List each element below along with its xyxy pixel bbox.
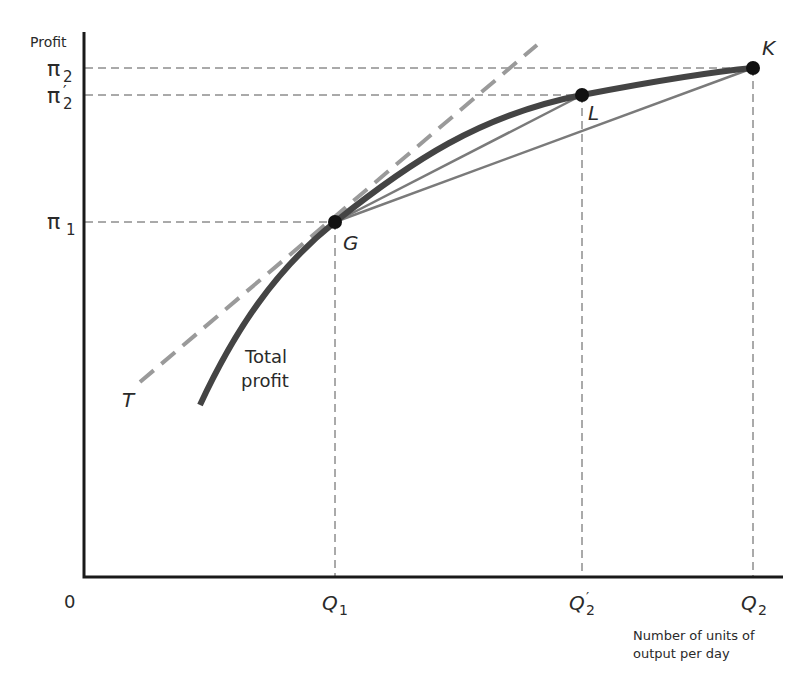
curve-label-line2: profit — [241, 370, 289, 391]
x-tick-q2-symbol: Q — [741, 591, 757, 615]
x-tick-q2-prime: Q ′ 2 — [569, 589, 595, 618]
x-tick-q2-sub: 2 — [758, 602, 767, 618]
y-tick-pi2-prime: π ′ 2 — [47, 82, 73, 113]
chord-g-k — [335, 68, 753, 222]
x-tick-q1-symbol: Q — [322, 591, 338, 615]
point-k — [746, 61, 760, 75]
label-l: L — [588, 101, 599, 125]
point-l — [575, 88, 589, 102]
chord-g-l — [335, 95, 582, 222]
y-tick-pi1-sub: 1 — [66, 221, 76, 239]
label-k: K — [762, 36, 777, 60]
x-axis-title-line1: Number of units of — [633, 628, 755, 643]
label-t: T — [122, 388, 136, 412]
x-tick-q2p-symbol: Q — [569, 591, 585, 615]
y-axis-title: Profit — [30, 34, 67, 50]
x-tick-q1: Q 1 — [322, 591, 348, 618]
x-tick-q2: Q 2 — [741, 591, 767, 618]
point-g — [328, 215, 342, 229]
y-tick-pi1-symbol: π — [47, 209, 60, 234]
x-tick-q2p-sub: 2 — [586, 602, 595, 618]
axis-lines — [84, 32, 783, 577]
y-tick-pi2: π 2 — [47, 56, 73, 86]
label-g: G — [343, 231, 359, 255]
y-tick-pi2-symbol: π — [47, 56, 60, 81]
x-tick-q1-sub: 1 — [339, 602, 348, 618]
origin-label: 0 — [64, 591, 75, 612]
y-tick-pi2p-symbol: π — [47, 83, 60, 108]
curve-label-line1: Total — [244, 346, 287, 367]
tangent-line-t — [140, 45, 537, 382]
y-tick-pi2p-sub: 2 — [63, 95, 73, 113]
x-axis-title-line2: output per day — [633, 646, 730, 661]
axes — [84, 32, 783, 577]
y-tick-pi1: π 1 — [47, 209, 76, 239]
profit-chart: G L K T Total profit Profit π 2 π ′ 2 π … — [0, 0, 809, 689]
